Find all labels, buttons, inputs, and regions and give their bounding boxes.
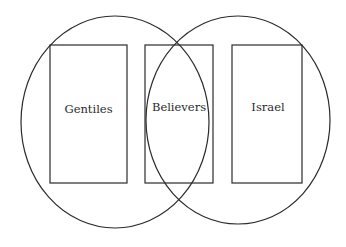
believers-box (145, 45, 213, 183)
israel-box (232, 45, 302, 183)
venn-diagram: Gentiles Believers Israel (0, 0, 346, 247)
gentiles-label: Gentiles (64, 102, 112, 116)
believers-label: Believers (152, 100, 206, 114)
left-circle (21, 16, 209, 228)
israel-label: Israel (251, 100, 285, 114)
